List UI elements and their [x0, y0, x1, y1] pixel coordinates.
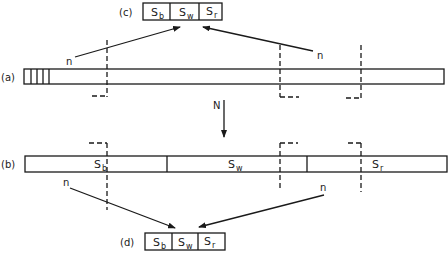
arrow-bottom-right-label: n [320, 182, 326, 193]
svg-text:S: S [372, 158, 379, 171]
arrow-top-right [203, 27, 313, 51]
diagram-canvas: (c) S b S w S r n n (a) [0, 0, 448, 253]
panel-d: (d) S b S w S r [120, 233, 225, 251]
svg-text:b: b [159, 12, 164, 21]
panel-a: (a) [1, 40, 444, 98]
arrow-top-right-label: n [317, 50, 323, 61]
arrow-top-left [75, 27, 180, 57]
svg-text:w: w [187, 12, 194, 21]
arrow-bottom-left-label: n [63, 177, 69, 188]
panel-c: (c) S b S w S r [119, 3, 222, 21]
panel-b-label: (b) [1, 159, 15, 170]
svg-text:S: S [178, 236, 185, 249]
panel-b-window-1 [89, 143, 107, 210]
svg-text:S: S [153, 236, 160, 249]
panel-a-label: (a) [1, 72, 15, 83]
arrow-bottom-right [199, 195, 324, 227]
svg-text:S: S [151, 6, 158, 19]
panel-c-label: (c) [119, 7, 132, 18]
arrow-top-left-label: n [66, 56, 72, 67]
svg-text:b: b [161, 242, 166, 251]
svg-text:S: S [228, 158, 235, 171]
svg-text:w: w [236, 164, 243, 173]
arrow-bottom-left [70, 188, 175, 228]
svg-text:b: b [102, 164, 107, 173]
svg-text:S: S [179, 6, 186, 19]
panel-d-label: (d) [120, 237, 134, 248]
arrow-n-label: N [213, 100, 220, 111]
svg-text:S: S [204, 235, 211, 248]
svg-text:S: S [206, 5, 213, 18]
svg-text:S: S [94, 158, 101, 171]
svg-text:w: w [186, 242, 193, 251]
panel-a-bar [24, 69, 444, 84]
